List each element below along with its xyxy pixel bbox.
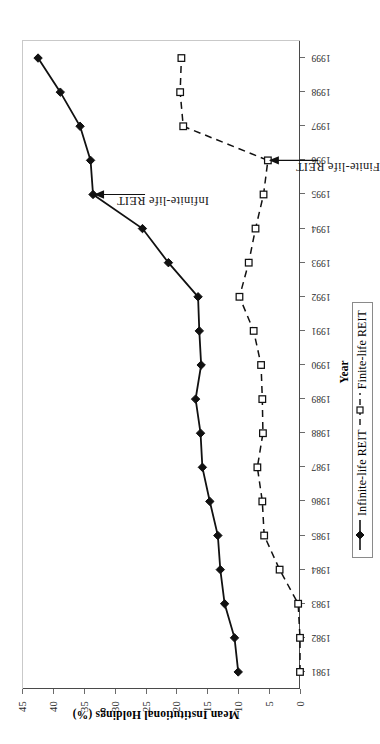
data-point-marker-square	[297, 635, 304, 642]
data-point-marker-square	[276, 566, 283, 573]
data-point-marker-diamond	[214, 531, 222, 539]
data-point-marker-square	[295, 600, 302, 607]
data-point-marker-diamond	[230, 634, 238, 642]
data-point-marker-diamond	[76, 122, 84, 130]
legend-key-infinite-life-reit	[354, 520, 370, 550]
chart-legend: Infinite-life REIT Finite-life REIT	[352, 302, 373, 558]
data-point-marker-square	[177, 89, 184, 96]
data-point-marker-square	[259, 498, 266, 505]
data-point-marker-diamond	[234, 668, 242, 676]
data-point-marker-square	[261, 532, 268, 539]
data-point-marker-diamond	[216, 565, 224, 573]
data-point-marker-square	[245, 259, 252, 266]
data-point-marker-diamond	[195, 327, 203, 335]
annotation-finite-life-reit: Finite-life REIT	[296, 159, 380, 174]
legend-label-infinite-life-reit: Infinite-life REIT	[356, 429, 368, 516]
data-point-marker-square	[178, 55, 185, 62]
data-point-marker-diamond	[220, 600, 228, 608]
annotation-arrowhead	[94, 190, 104, 198]
data-point-marker-square	[252, 225, 259, 232]
legend-key-finite-life-reit	[354, 393, 370, 425]
data-point-marker-diamond	[196, 429, 204, 437]
data-point-marker-square	[258, 362, 265, 369]
data-point-marker-square	[180, 123, 187, 130]
data-point-marker-square	[260, 430, 267, 437]
data-point-marker-square	[260, 191, 267, 198]
data-point-marker-square	[254, 464, 261, 471]
data-point-marker-diamond	[191, 395, 199, 403]
data-point-marker-diamond	[206, 497, 214, 505]
legend-label-finite-life-reit: Finite-life REIT	[356, 310, 368, 389]
series-line-infinite-life-reit	[38, 58, 238, 672]
annotation-infinite-life-reit: Infinite-life REIT	[117, 193, 209, 208]
data-point-marker-diamond	[197, 361, 205, 369]
data-point-marker-square	[236, 293, 243, 300]
data-point-marker-square	[259, 396, 266, 403]
data-point-marker-square	[250, 328, 257, 335]
data-point-marker-diamond	[198, 463, 206, 471]
data-point-marker-diamond	[86, 156, 94, 164]
data-point-marker-square	[297, 669, 304, 676]
